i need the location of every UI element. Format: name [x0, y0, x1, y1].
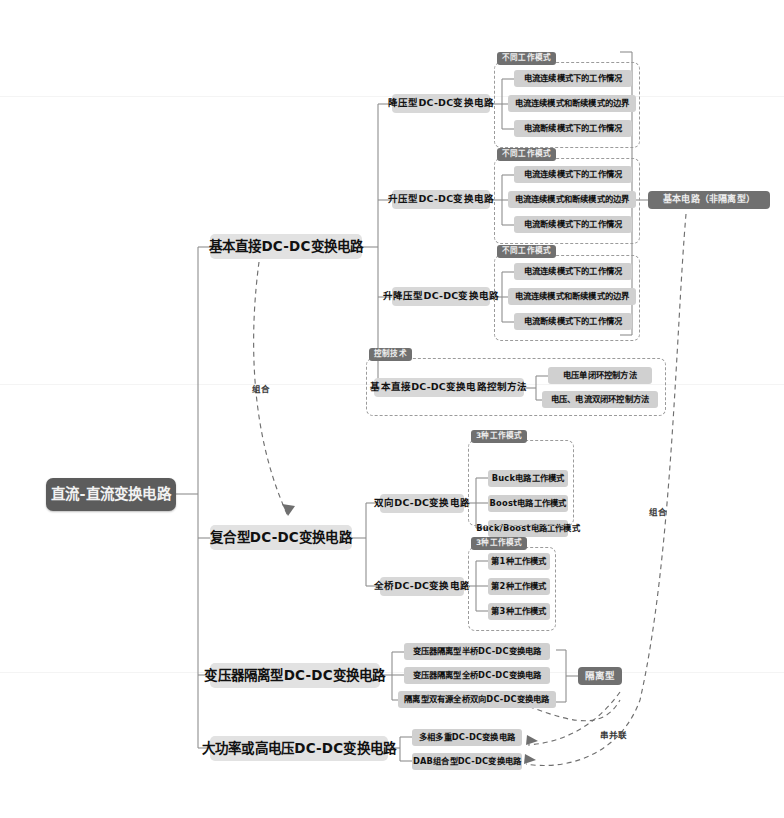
- group-label-bidirectional: 3种工作模式: [471, 430, 527, 443]
- group-box-buckboost-modes: [494, 255, 640, 341]
- series-parallel-annotation: 串并联: [600, 728, 627, 740]
- branch-composite[interactable]: 复合型DC-DC变换电路: [210, 525, 352, 550]
- group-box-control-tech: [366, 358, 666, 416]
- leaf-dual-active-bridge-isolated[interactable]: 隔离型双有源全桥双向DC-DC变换电路: [398, 691, 556, 708]
- group-label-buckboost-modes: 不同工作模式: [497, 245, 556, 258]
- node-buck-circuit[interactable]: 降压型DC-DC变换电路: [392, 94, 490, 113]
- arrowhead: [524, 754, 536, 764]
- leaf-dab-composite[interactable]: DAB组合型DC-DC变换电路: [412, 753, 522, 770]
- group-box-buck-modes: [494, 62, 640, 148]
- arrowhead: [282, 504, 295, 516]
- leaf-full-bridge-isolated[interactable]: 变压器隔离型全桥DC-DC变换电路: [404, 667, 550, 684]
- group-box-fullbridge: [468, 547, 556, 631]
- group-label-control-tech: 控制技术: [369, 348, 412, 361]
- mindmap-canvas: 不同工作模式 不同工作模式 不同工作模式 控制技术 3种工作模式 3种工作模式 …: [0, 0, 784, 818]
- combine-annotation-right: 组合: [649, 505, 667, 517]
- root-node[interactable]: 直流-直流变换电路: [46, 478, 176, 511]
- node-buckboost-circuit[interactable]: 升降压型DC-DC变换电路: [392, 287, 490, 306]
- arrowhead: [526, 735, 538, 745]
- branch-transformer-isolated[interactable]: 变压器隔离型DC-DC变换电路: [210, 663, 380, 688]
- leaf-multiphase-multiplex[interactable]: 多相多重DC-DC变换电路: [412, 729, 522, 746]
- group-box-boost-modes: [494, 158, 640, 244]
- node-fullbridge-circuit[interactable]: 全桥DC-DC变换电路: [380, 577, 464, 596]
- combine-annotation-left: 组合: [252, 382, 270, 394]
- scan-artifact: [0, 672, 784, 673]
- group-label-buck-modes: 不同工作模式: [497, 52, 556, 65]
- group-label-fullbridge: 3种工作模式: [471, 537, 527, 550]
- node-boost-circuit[interactable]: 升压型DC-DC变换电路: [392, 190, 490, 209]
- group-box-bidirectional: [468, 440, 574, 526]
- group-label-boost-modes: 不同工作模式: [497, 148, 556, 161]
- branch-high-power[interactable]: 大功率或高电压DC-DC变换电路: [210, 736, 388, 761]
- basic-nonisolated-label[interactable]: 基本电路（非隔离型）: [648, 191, 770, 209]
- leaf-half-bridge-isolated[interactable]: 变压器隔离型半桥DC-DC变换电路: [404, 643, 550, 660]
- isolated-label[interactable]: 隔离型: [578, 667, 622, 685]
- node-bidirectional-circuit[interactable]: 双向DC-DC变换电路: [380, 494, 464, 513]
- branch-basic-direct[interactable]: 基本直接DC-DC变换电路: [210, 234, 362, 259]
